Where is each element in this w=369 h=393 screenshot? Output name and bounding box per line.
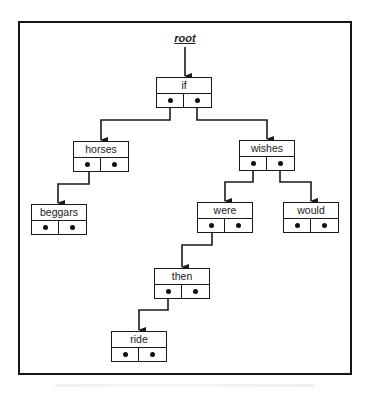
left-pointer-cell xyxy=(240,156,267,170)
right-pointer-cell xyxy=(267,156,294,170)
pointer-dot-icon xyxy=(43,225,48,230)
node-label: were xyxy=(198,203,252,219)
tree-node-if: if xyxy=(156,77,212,108)
pointer-dot-icon xyxy=(150,352,155,357)
left-pointer-cell xyxy=(157,93,184,107)
root-pointer-label: root xyxy=(171,32,199,44)
pointer-dot-icon xyxy=(236,223,241,228)
tree-node-horses: horses xyxy=(73,141,129,172)
node-label: would xyxy=(284,203,338,219)
node-label: then xyxy=(155,269,209,285)
left-pointer-cell xyxy=(32,220,59,234)
pointer-dot-icon xyxy=(112,162,117,167)
pointer-dot-icon xyxy=(278,161,283,166)
right-pointer-cell xyxy=(182,284,209,298)
tree-node-would: would xyxy=(283,202,339,233)
right-pointer-cell xyxy=(225,218,252,232)
left-pointer-cell xyxy=(155,284,182,298)
node-label: horses xyxy=(74,142,128,158)
right-pointer-cell xyxy=(59,220,86,234)
left-pointer-cell xyxy=(198,218,225,232)
pointer-dot-icon xyxy=(123,352,128,357)
pointer-dot-icon xyxy=(70,225,75,230)
tree-node-ride: ride xyxy=(111,331,167,362)
right-pointer-cell xyxy=(139,347,166,361)
pointer-dot-icon xyxy=(251,161,256,166)
pointer-dot-icon xyxy=(166,289,171,294)
pointer-dot-icon xyxy=(85,162,90,167)
pointer-dot-icon xyxy=(193,289,198,294)
left-pointer-cell xyxy=(74,157,101,171)
pointer-dot-icon xyxy=(209,223,214,228)
right-pointer-cell xyxy=(184,93,211,107)
tree-node-beggars: beggars xyxy=(31,204,87,235)
diagram-frame xyxy=(18,21,352,375)
tree-node-then: then xyxy=(154,268,210,299)
tree-node-were: were xyxy=(197,202,253,233)
right-pointer-cell xyxy=(101,157,128,171)
faded-caption xyxy=(55,384,315,387)
right-pointer-cell xyxy=(311,218,338,232)
node-label: ride xyxy=(112,332,166,348)
node-label: beggars xyxy=(32,205,86,221)
pointer-dot-icon xyxy=(295,223,300,228)
left-pointer-cell xyxy=(112,347,139,361)
node-label: wishes xyxy=(240,141,294,157)
pointer-dot-icon xyxy=(168,98,173,103)
pointer-dot-icon xyxy=(195,98,200,103)
pointer-dot-icon xyxy=(322,223,327,228)
node-label: if xyxy=(157,78,211,94)
left-pointer-cell xyxy=(284,218,311,232)
tree-node-wishes: wishes xyxy=(239,140,295,171)
